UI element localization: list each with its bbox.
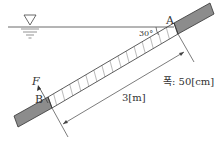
lower-wall-bar <box>14 97 52 127</box>
label-length: 3[m] <box>122 92 146 103</box>
dimension-arrow-head-lower <box>63 120 68 124</box>
label-point-b: B <box>35 93 43 106</box>
gate-diagram: A B F 30° 3[m] 폭: 50[cm] <box>0 0 216 154</box>
label-point-a: A <box>165 14 175 27</box>
water-surface-triangle-icon <box>21 15 39 38</box>
label-angle: 30° <box>139 29 153 38</box>
label-width: 폭: 50[cm] <box>163 76 214 87</box>
hatched-gate-plate <box>48 23 178 108</box>
dimension-arrow-head-upper <box>179 52 184 56</box>
extension-line-a <box>178 34 194 62</box>
label-force: F <box>31 75 40 88</box>
upper-wall-bar <box>174 3 214 34</box>
